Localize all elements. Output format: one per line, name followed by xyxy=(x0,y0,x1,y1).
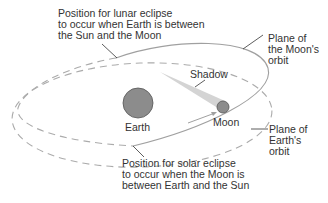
leader-lunar xyxy=(102,44,117,58)
moon-orbit-back xyxy=(18,58,133,146)
lunar-eclipse-label: Position for lunar eclipse to occur when… xyxy=(58,8,205,41)
earth-orbit-label: Plane of Earth's orbit xyxy=(269,124,308,157)
leader-shadow xyxy=(195,80,205,87)
earth-label: Earth xyxy=(125,122,150,133)
earth-sphere xyxy=(123,88,153,118)
moon-sphere xyxy=(217,101,229,113)
shadow-label: Shadow xyxy=(190,69,228,80)
moon-motion-arrow xyxy=(188,113,215,123)
leader-solar xyxy=(133,146,144,157)
solar-eclipse-label: Position for solar eclipse to occur when… xyxy=(122,158,249,191)
moon-label: Moon xyxy=(213,117,239,128)
leader-moon-orbit xyxy=(243,35,263,49)
moon-orbit-label: Plane of the Moon's orbit xyxy=(268,33,319,66)
